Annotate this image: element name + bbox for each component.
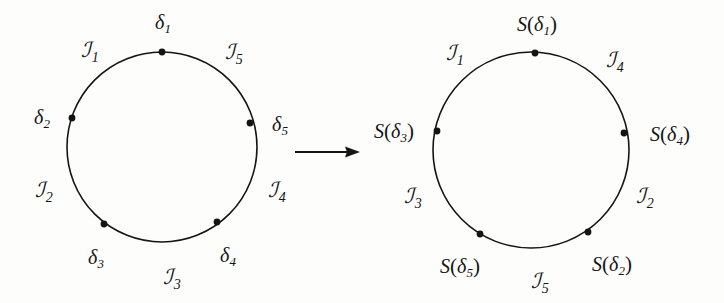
arc-label-right-I5: ℐ5 — [531, 271, 549, 292]
arc-label-right-I1: ℐ1 — [446, 43, 464, 64]
point-label-right-Sd4: S(δ4) — [650, 124, 690, 145]
arc-label-right-I2: ℐ2 — [636, 186, 654, 207]
right-circle-outline — [433, 52, 629, 248]
point-label-right-Sd5: S(δ5) — [440, 256, 480, 277]
arc-label-right-I3: ℐ3 — [404, 186, 422, 207]
point-marker-Sd2 — [585, 229, 592, 236]
point-marker-Sd5 — [477, 231, 484, 238]
maps-to-arrow — [295, 147, 360, 158]
arrow-head — [345, 147, 360, 158]
point-label-right-Sd3: S(δ3) — [374, 121, 414, 142]
point-marker-Sd1 — [532, 50, 539, 57]
arc-label-left-I3: ℐ3 — [163, 267, 181, 288]
left-circle-dots — [69, 49, 254, 228]
point-marker-d1 — [159, 49, 166, 56]
point-label-right-Sd2: S(δ2) — [592, 254, 632, 275]
point-label-left-d3: δ3 — [88, 247, 104, 267]
diagram-stage: δ1δ2δ3δ4δ5ℐ1ℐ2ℐ3ℐ4ℐ5S(δ1)S(δ3)S(δ4)S(δ5)… — [0, 0, 724, 303]
point-label-left-d2: δ2 — [34, 107, 50, 127]
point-marker-d4 — [214, 219, 221, 226]
point-marker-d3 — [101, 221, 108, 228]
point-label-left-d5: δ5 — [272, 114, 288, 134]
point-marker-d5 — [247, 120, 254, 127]
left-circle-outline — [67, 52, 257, 242]
arc-label-left-I2: ℐ2 — [35, 180, 53, 201]
point-marker-Sd4 — [621, 130, 628, 137]
point-marker-d2 — [69, 115, 76, 122]
arc-label-left-I1: ℐ1 — [81, 40, 99, 61]
point-marker-Sd3 — [434, 128, 441, 135]
arc-label-left-I5: ℐ5 — [225, 42, 243, 63]
figure-canvas: δ1δ2δ3δ4δ5ℐ1ℐ2ℐ3ℐ4ℐ5S(δ1)S(δ3)S(δ4)S(δ5)… — [0, 0, 724, 303]
point-label-left-d1: δ1 — [155, 12, 171, 32]
arc-label-right-I4: ℐ4 — [606, 50, 624, 71]
point-label-left-d4: δ4 — [220, 245, 236, 265]
arc-label-left-I4: ℐ4 — [268, 180, 286, 201]
point-label-right-Sd1: S(δ1) — [517, 14, 557, 35]
